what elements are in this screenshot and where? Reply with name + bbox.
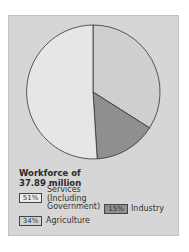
legend-label-industry: Industry: [131, 205, 164, 214]
legend-swatch-services: 51%: [19, 193, 42, 203]
legend-swatch-agriculture: 34%: [19, 216, 42, 226]
legend-label-services: Services (Including Government): [47, 186, 100, 212]
legend-swatch-industry: 15%: [104, 204, 128, 214]
title-line-1: Workforce of: [19, 168, 81, 178]
pie-chart: [0, 0, 189, 252]
slice-services: [27, 25, 98, 159]
legend-services-line3: Government): [47, 203, 100, 212]
legend-label-agriculture: Agriculture: [46, 217, 90, 226]
